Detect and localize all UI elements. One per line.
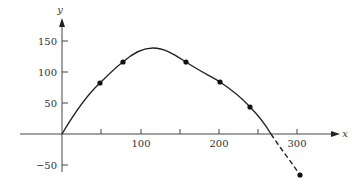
data-point: [120, 59, 125, 64]
data-point: [97, 80, 102, 85]
x-axis-arrow-icon: [331, 131, 340, 137]
data-points: [97, 59, 302, 177]
y-tick-label-50: 50: [44, 98, 57, 109]
y-tick-label-neg50: −50: [36, 160, 57, 171]
x-tick-label-100: 100: [131, 138, 150, 149]
y-axis-label: y: [56, 4, 63, 15]
x-tick-label-300: 300: [287, 138, 306, 149]
data-point: [297, 172, 302, 177]
x-axis-label: x: [342, 128, 348, 139]
y-tick-label-150: 150: [38, 36, 57, 47]
data-point: [217, 79, 222, 84]
x-tick-label-200: 200: [209, 138, 228, 149]
y-axis-arrow-icon: [59, 18, 65, 27]
curve-solid: [62, 48, 271, 134]
data-point: [183, 59, 188, 64]
y-tick-label-100: 100: [38, 67, 57, 78]
chart: 150 100 50 −50 100 200 300 y x: [0, 0, 352, 188]
y-ticks: [62, 41, 68, 165]
data-point: [247, 104, 252, 109]
